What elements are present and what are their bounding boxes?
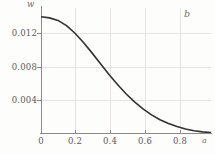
y-tick-label: 0.012: [12, 28, 37, 38]
y-axis-title: w: [27, 0, 34, 9]
curve-plot: [41, 8, 211, 133]
x-axis-title: a: [202, 136, 207, 145]
x-tick-label: 0.8: [167, 136, 193, 146]
y-tick-label: 0.008: [12, 62, 37, 72]
x-tick-label: 0.4: [97, 136, 123, 146]
x-axis-line: [40, 133, 212, 134]
y-tick-label: 0.004: [12, 95, 37, 105]
figure-panel-b: 0.012 0.008 0.004 0 0.2 0.4 0.6 0.8 w a …: [0, 0, 215, 154]
x-tick-label: 0: [31, 136, 51, 146]
x-tick-label: 0.6: [132, 136, 158, 146]
x-tick-label: 0.2: [62, 136, 88, 146]
data-series-line: [41, 17, 211, 133]
